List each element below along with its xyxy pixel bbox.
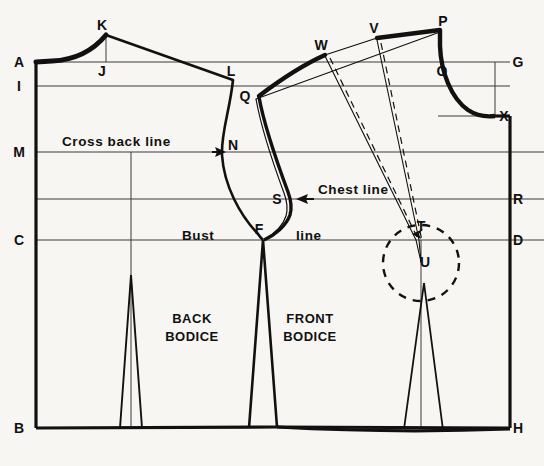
shoulder-construction-Q-P (256, 32, 440, 99)
shoulder-dart-leg-W (325, 56, 421, 262)
cross-back-line-label: Cross back line (62, 134, 171, 149)
point-labels-group: A B C D F G H I J K L M N O P Q R S T U … (13, 13, 523, 436)
point-label-G: G (513, 54, 524, 70)
front-armhole-curve-inner (256, 99, 287, 240)
front-waist-dart (404, 283, 443, 430)
back-bodice-label-line2: BODICE (165, 329, 219, 344)
point-label-W: W (314, 37, 328, 53)
point-label-Q: Q (240, 88, 251, 104)
chest-line-label: Chest line (318, 182, 389, 197)
point-label-C: C (14, 232, 24, 248)
bust-line-label-2: line (296, 228, 322, 243)
front-bodice-label-line2: BODICE (283, 329, 337, 344)
bodice-draft-svg: A B C D F G H I J K L M N O P Q R S T U … (0, 0, 544, 466)
point-label-P: P (438, 13, 447, 29)
point-label-H: H (513, 420, 523, 436)
point-label-T: T (417, 218, 426, 234)
back-neckline-curve (36, 35, 106, 62)
point-label-U: U (420, 254, 430, 270)
shoulder-dart-span-W-V (325, 38, 377, 55)
point-label-F: F (255, 221, 264, 237)
dart-pivot-dashed-group (330, 43, 422, 241)
guide-text-group: Cross back line Chest line Bust line (62, 134, 389, 243)
point-label-B: B (14, 420, 24, 436)
point-label-L: L (227, 63, 236, 79)
back-neck-shoulder-group (36, 35, 233, 80)
point-label-D: D (513, 232, 523, 248)
point-label-I: I (17, 78, 21, 94)
point-label-J: J (98, 63, 106, 79)
waist-line-B-H (36, 427, 510, 428)
draft-figure: A B C D F G H I J K L M N O P Q R S T U … (0, 0, 544, 466)
front-armhole-group (256, 97, 291, 240)
point-label-M: M (13, 144, 25, 160)
front-shoulder-seam-Q-W (259, 55, 325, 96)
bust-line-label-1: Bust (182, 228, 214, 243)
side-underarm-dart (249, 240, 277, 428)
point-label-O: O (437, 63, 448, 79)
back-shoulder-seam (106, 35, 233, 80)
point-label-R: R (513, 191, 523, 207)
front-shoulder-seam-V-P (377, 30, 440, 38)
shoulder-dart-leg-V (377, 40, 421, 262)
point-label-K: K (97, 17, 107, 33)
front-bodice-label-line1: FRONT (286, 311, 333, 326)
front-neckline-group (440, 30, 495, 116)
point-label-S: S (272, 191, 281, 207)
dart-pivot-dashed-1 (330, 58, 419, 241)
front-neckline-curve (440, 30, 495, 116)
point-label-N: N (228, 137, 238, 153)
piece-labels-group: BACK BODICE FRONT BODICE (165, 311, 337, 344)
point-label-A: A (14, 54, 24, 70)
back-bodice-label-line1: BACK (172, 311, 212, 326)
point-label-X: X (499, 108, 509, 124)
point-label-V: V (369, 20, 379, 36)
